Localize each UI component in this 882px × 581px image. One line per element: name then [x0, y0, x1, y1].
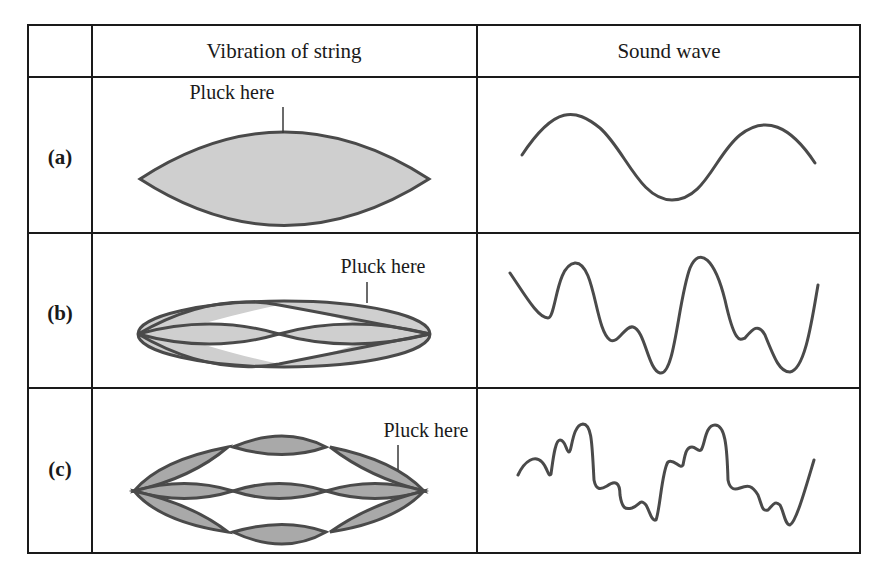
sound-wave-c	[518, 424, 814, 525]
string-vibration-b: Pluck here	[138, 255, 430, 367]
sound-wave-a	[522, 114, 815, 200]
row-label-c: (c)	[48, 457, 71, 481]
row-label-b: (b)	[47, 301, 73, 325]
header-vibration-of-string: Vibration of string	[206, 39, 362, 63]
string-vibration-c: Pluck here	[134, 419, 469, 544]
header-sound-wave: Sound wave	[617, 39, 720, 63]
harmonic-lobe	[233, 484, 326, 499]
pluck-here-label-a: Pluck here	[190, 81, 275, 103]
string-envelope-icon	[140, 132, 429, 226]
harmonic-lobe	[233, 436, 326, 455]
sound-wave-b	[510, 257, 818, 373]
string-vibration-a: Pluck here	[140, 81, 429, 226]
harmonic-lobe	[233, 525, 326, 545]
pluck-here-label-b: Pluck here	[341, 255, 426, 277]
string-vibration-figure: Vibration of string Sound wave (a) (b) (…	[0, 0, 882, 581]
row-label-a: (a)	[48, 145, 73, 169]
pluck-here-label-c: Pluck here	[384, 419, 469, 441]
